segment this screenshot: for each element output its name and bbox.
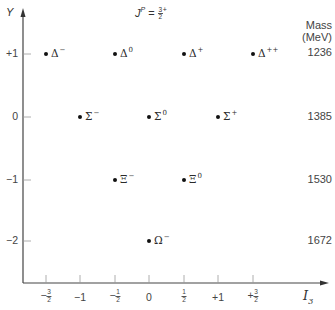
x-axis-arrow-icon [320,281,329,286]
y-axis-label: Y [6,6,13,18]
particle-point [251,52,256,57]
particle-label-sigma-plus: Σ+ [223,109,237,122]
particle-label-delta-plusplus: Δ++ [258,46,278,59]
x-tick-label: −12 [109,289,120,303]
y-tick-label: 0 [0,110,18,122]
y-tick-label: +1 [0,47,18,59]
x-tick-label: −1 [74,291,86,303]
particle-label-sigma-minus: Σ− [85,109,99,122]
x-tick-label: +32 [247,289,258,303]
y-axis-arrow-icon [21,8,26,17]
particle-point [147,115,152,120]
particle-point [113,178,118,183]
mass-value-omega: 1672 [290,234,332,246]
particle-label-sigma-zero: Σ0 [154,109,167,122]
mass-value-delta: 1236 [290,46,332,58]
x-tick-label: 0 [146,291,152,303]
particle-point [44,52,49,57]
spin-parity-title: JP = 32+ [135,6,167,21]
y-tick-label: −2 [0,234,18,246]
x-tick-label: +1 [212,291,224,303]
particle-point [147,239,152,244]
x-tick-label: 12 [182,289,187,303]
particle-label-xi-zero: Ξ0 [189,172,202,185]
particle-point [182,52,187,57]
particle-point [182,178,187,183]
mass-header: Mass (MeV) [290,19,332,43]
particle-point [78,115,83,120]
x-axis-label: I3 [303,288,313,306]
mass-value-sigma: 1385 [290,110,332,122]
particle-point [113,52,118,57]
particle-label-omega-minus: Ω− [154,233,170,246]
mass-value-xi: 1530 [290,173,332,185]
particle-label-delta-minus: Δ− [51,46,65,59]
particle-label-delta-zero: Δ0 [120,46,133,59]
particle-label-delta-plus: Δ+ [189,46,203,59]
y-tick-label: −1 [0,173,18,185]
particle-point [216,115,221,120]
particle-label-xi-minus: Ξ− [120,172,134,185]
x-tick-label: −32 [40,289,51,303]
